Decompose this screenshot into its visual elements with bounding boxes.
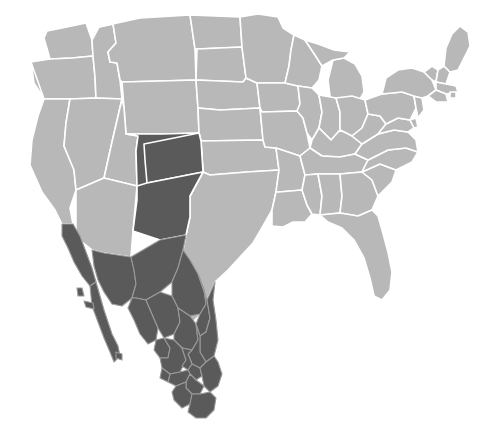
region-washington[interactable] <box>44 23 93 59</box>
region-iowa[interactable] <box>257 83 300 112</box>
map-container: United States and Mexico choropleth map … <box>0 0 478 430</box>
region-north-dakota[interactable] <box>190 15 242 49</box>
region-alabama[interactable] <box>318 174 342 215</box>
region-wyoming[interactable] <box>122 80 199 134</box>
region-baja-island-north[interactable] <box>77 288 84 296</box>
region-rhode-island[interactable] <box>450 92 456 98</box>
region-oaxaca[interactable] <box>188 392 216 418</box>
region-kansas[interactable] <box>198 108 263 141</box>
region-florida[interactable] <box>320 210 392 300</box>
region-nebraska[interactable] <box>196 78 260 110</box>
choropleth-map <box>0 0 478 430</box>
region-south-dakota[interactable] <box>196 47 246 82</box>
region-baja-island-tip[interactable] <box>116 352 122 360</box>
region-minnesota[interactable] <box>240 14 294 83</box>
region-maine[interactable] <box>444 26 470 72</box>
us-base-layer <box>30 14 470 325</box>
region-new-jersey[interactable] <box>414 96 424 118</box>
region-arizona[interactable] <box>76 178 137 257</box>
